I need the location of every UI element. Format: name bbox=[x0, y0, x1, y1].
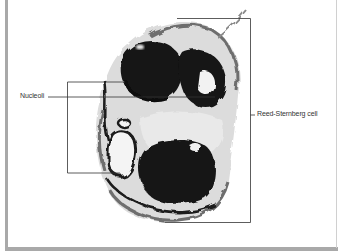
nucleolus-highlight bbox=[136, 45, 144, 50]
cell-process bbox=[218, 10, 246, 38]
nucleus-upper-left bbox=[121, 41, 182, 101]
reed-sternberg-cell-illustration bbox=[0, 0, 338, 251]
nucleoli-label: Nucleoli bbox=[20, 92, 44, 99]
reed-sternberg-cell-label: Reed-Sternberg cell bbox=[257, 110, 317, 117]
